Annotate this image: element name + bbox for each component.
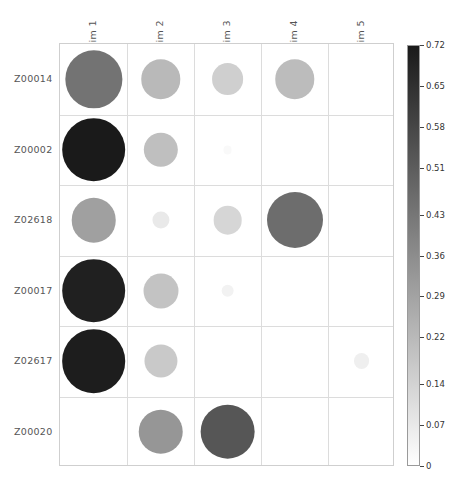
colorbar-tick (420, 127, 424, 128)
colorbar-tick-label: 0.14 (426, 379, 445, 389)
colorbar-gradient (407, 45, 420, 466)
bubble-z00014-dim-3[interactable] (212, 63, 244, 95)
row-label-z02618: Z02618 (14, 214, 53, 225)
colorbar-tick-label: 0.36 (426, 251, 445, 261)
bubble-z00014-dim-1[interactable] (65, 51, 122, 108)
bubble-z02618-dim-2[interactable] (152, 212, 169, 229)
bubble-z02617-dim-1[interactable] (62, 329, 126, 393)
bubble-z02617-dim-5[interactable] (354, 353, 370, 369)
colorbar-tick-label: 0 (426, 461, 431, 471)
colorbar-tick-label: 0.65 (426, 81, 445, 91)
grid-line-vertical (127, 44, 128, 465)
colorbar-tick (420, 215, 424, 216)
colorbar-tick-label: 0.72 (426, 40, 445, 50)
colorbar-tick-label: 0.43 (426, 210, 445, 220)
grid-line-horizontal (60, 256, 393, 257)
colorbar-tick (420, 425, 424, 426)
colorbar-tick (420, 384, 424, 385)
bubble-z00017-dim-1[interactable] (62, 259, 126, 323)
colorbar-tick-label: 0.58 (426, 122, 445, 132)
bubble-z00002-dim-3[interactable] (223, 145, 232, 154)
bubble-z00017-dim-3[interactable] (221, 284, 234, 297)
grid-line-horizontal (60, 326, 393, 327)
row-label-z00017: Z00017 (14, 284, 53, 295)
colorbar-tick-label: 0.22 (426, 332, 445, 342)
colorbar-tick (420, 337, 424, 338)
bubble-z00014-dim-2[interactable] (141, 60, 180, 99)
row-label-z00002: Z00002 (14, 143, 53, 154)
colorbar-tick (420, 466, 424, 467)
colorbar[interactable]: 0.720.650.580.510.430.360.290.220.140.07… (407, 45, 420, 466)
colorbar-tick (420, 45, 424, 46)
bubble-matrix-figure: Dim 1Dim 2Dim 3Dim 4Dim 5 Z00014Z00002Z0… (0, 0, 452, 489)
grid-line-vertical (261, 44, 262, 465)
colorbar-tick (420, 256, 424, 257)
row-label-z02617: Z02617 (14, 355, 53, 366)
bubble-z02618-dim-3[interactable] (213, 206, 242, 235)
bubble-z00002-dim-1[interactable] (62, 118, 126, 182)
grid-line-horizontal (60, 185, 393, 186)
colorbar-tick-label: 0.07 (426, 420, 445, 430)
colorbar-tick (420, 168, 424, 169)
colorbar-tick-label: 0.29 (426, 291, 445, 301)
colorbar-tick-label: 0.51 (426, 163, 445, 173)
grid-line-vertical (328, 44, 329, 465)
bubble-z00002-dim-2[interactable] (143, 133, 177, 167)
bubble-z02618-dim-1[interactable] (71, 198, 116, 243)
bubble-z00020-dim-2[interactable] (138, 409, 183, 454)
grid-line-horizontal (60, 115, 393, 116)
grid-line-vertical (194, 44, 195, 465)
colorbar-tick (420, 296, 424, 297)
bubble-z00014-dim-4[interactable] (275, 60, 314, 99)
row-label-z00014: Z00014 (14, 73, 53, 84)
bubble-z02618-dim-4[interactable] (267, 192, 323, 248)
bubble-z00017-dim-2[interactable] (143, 273, 178, 308)
bubble-z00020-dim-3[interactable] (200, 404, 255, 459)
bubble-z02617-dim-2[interactable] (144, 345, 177, 378)
plot-area (59, 43, 394, 466)
grid-line-horizontal (60, 397, 393, 398)
row-label-z00020: Z00020 (14, 425, 53, 436)
colorbar-tick (420, 86, 424, 87)
